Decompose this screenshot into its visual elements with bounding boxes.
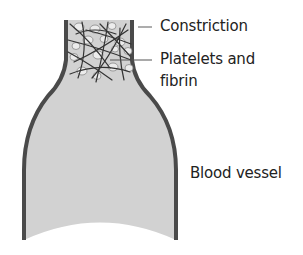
platelets-label-line2: fibrin xyxy=(160,72,198,90)
constriction-label: Constriction xyxy=(160,17,248,35)
blood-vessel-diagram xyxy=(0,0,303,255)
blood-vessel-label: Blood vessel xyxy=(190,164,282,182)
platelets-label-line1: Platelets and xyxy=(160,50,255,68)
